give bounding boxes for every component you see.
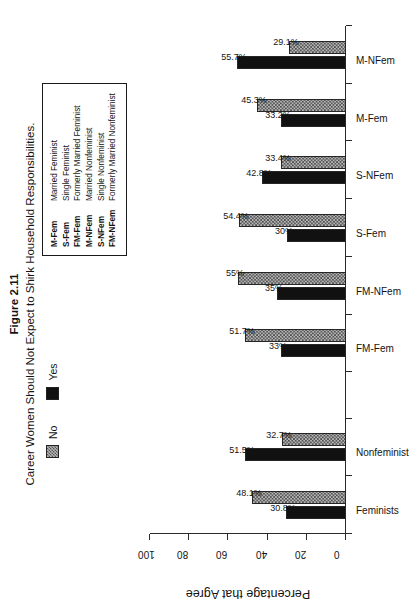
bar-value-label: 30.8% bbox=[270, 503, 296, 513]
bar-no-fm-nfem: 55% bbox=[238, 272, 346, 285]
figure-title: Career Women Should Not Expect to Shirk … bbox=[24, 0, 36, 608]
bar-value-label: 55.7% bbox=[221, 52, 247, 62]
bar-yes-nonfeminist: 51.5% bbox=[245, 448, 346, 461]
abbreviation-row: FM-FemFormerly Married Feminist bbox=[72, 93, 84, 247]
bar-no-m-fem: 45.3% bbox=[257, 99, 346, 112]
y-axis-tick bbox=[149, 534, 150, 540]
bar-group-m-fem: 33.2%45.3%M-Fem bbox=[150, 84, 346, 142]
bar-value-label: 51.5% bbox=[229, 445, 255, 455]
y-axis-tick-label: 60 bbox=[216, 549, 240, 560]
abbreviation-row: M-NFemMarried Nonfeminist bbox=[84, 93, 96, 247]
abbreviation-value: Single Feminist bbox=[61, 145, 73, 201]
bar-value-label: 55% bbox=[226, 268, 244, 278]
bar-yes-fm-nfem: 35% bbox=[277, 287, 346, 300]
abbreviation-key: FM-Fem bbox=[72, 201, 84, 247]
abbreviation-value: Formerly Married Feminist bbox=[72, 105, 84, 201]
bar-value-label: 42.8% bbox=[246, 168, 272, 178]
x-axis-tick bbox=[346, 533, 352, 534]
bar-group-spacer bbox=[150, 372, 346, 418]
bar-no-nonfeminist: 32.7% bbox=[282, 433, 346, 446]
y-axis-tick-label: 100 bbox=[138, 549, 162, 560]
y-axis-tick bbox=[188, 534, 189, 540]
bar-value-label: 35% bbox=[265, 283, 283, 293]
abbreviation-key: M-NFem bbox=[84, 201, 96, 247]
bar-group-m-nfem: 55.7%29.1%M-NFem bbox=[150, 26, 346, 84]
bar-yes-feminists: 30.8% bbox=[286, 506, 346, 519]
bar-value-label: 32.7% bbox=[266, 430, 292, 440]
x-axis-tick bbox=[346, 371, 352, 372]
abbreviation-legend-box: M-FemMarried FeministS-FemSingle Feminis… bbox=[42, 83, 127, 256]
abbreviation-key: S-NFem bbox=[96, 201, 108, 247]
abbreviation-value: Married Feminist bbox=[49, 140, 61, 201]
bar-group-s-nfem: 42.8%33.4%S-NFem bbox=[150, 141, 346, 199]
plot-area: 020406080100 Percentage that Agree 30.8%… bbox=[150, 26, 346, 534]
bar-value-label: 33.2% bbox=[265, 110, 291, 120]
x-axis-tick bbox=[346, 140, 352, 141]
y-axis-tick bbox=[306, 534, 307, 540]
bar-value-label: 33.4% bbox=[265, 153, 291, 163]
bar-value-label: 33% bbox=[269, 341, 287, 351]
chart-legend: NoYes bbox=[46, 363, 59, 458]
legend-entry-no: No bbox=[46, 426, 59, 458]
x-axis-category-label: S-Fem bbox=[356, 228, 386, 239]
y-axis-tick-label: 80 bbox=[177, 549, 201, 560]
y-axis-tick bbox=[345, 534, 346, 540]
abbreviation-row: M-FemMarried Feminist bbox=[49, 93, 61, 247]
x-axis-tick bbox=[346, 314, 352, 315]
legend-swatch-icon bbox=[46, 445, 59, 458]
abbreviation-value: Single Nonfeminist bbox=[96, 133, 108, 201]
legend-entry-yes: Yes bbox=[46, 363, 59, 399]
x-axis-tick bbox=[346, 418, 352, 419]
legend-label: Yes bbox=[47, 363, 59, 380]
bar-value-label: 29.1% bbox=[273, 37, 299, 47]
abbreviation-value: Married Nonfeminist bbox=[84, 128, 96, 201]
y-axis-tick bbox=[267, 534, 268, 540]
bar-group-feminists: 30.8%48.1%Feminists bbox=[150, 476, 346, 534]
legend-label: No bbox=[47, 426, 59, 439]
abbreviation-value: Formerly Married Nonfeminist bbox=[107, 93, 119, 201]
x-axis-tick bbox=[346, 83, 352, 84]
x-axis-category-label: S-NFem bbox=[356, 170, 393, 181]
bar-group-nonfeminist: 51.5%32.7%Nonfeminist bbox=[150, 419, 346, 477]
bar-group-fm-fem: 33%51.7%FM-Fem bbox=[150, 315, 346, 373]
x-axis-category-label: Nonfeminist bbox=[356, 447, 409, 458]
x-axis-category-label: M-Fem bbox=[356, 113, 388, 124]
figure-number: Figure 2.11 bbox=[8, 0, 20, 608]
y-axis-tick bbox=[227, 534, 228, 540]
legend-swatch-icon bbox=[46, 387, 59, 400]
abbreviation-key: M-Fem bbox=[49, 201, 61, 247]
bar-value-label: 45.3% bbox=[241, 95, 267, 105]
bar-value-label: 30% bbox=[275, 226, 293, 236]
bar-yes-s-fem: 30% bbox=[287, 229, 346, 242]
x-axis-tick bbox=[346, 256, 352, 257]
abbreviation-key: S-Fem bbox=[61, 201, 73, 247]
x-axis-tick bbox=[346, 475, 352, 476]
bar-value-label: 48.1% bbox=[236, 488, 262, 498]
bar-group-s-fem: 30%54.4%S-Fem bbox=[150, 199, 346, 257]
bar-yes-m-nfem: 55.7% bbox=[237, 56, 346, 69]
bar-group-fm-nfem: 35%55%FM-NFem bbox=[150, 257, 346, 315]
bar-groups: 30.8%48.1%Feminists51.5%32.7%Nonfeminist… bbox=[150, 26, 346, 534]
x-axis-category-label: Feminists bbox=[356, 505, 399, 516]
bar-no-feminists: 48.1% bbox=[252, 491, 346, 504]
x-axis-category-label: FM-Fem bbox=[356, 343, 394, 354]
bar-value-label: 54.4% bbox=[224, 211, 250, 221]
y-axis-tick-label: 0 bbox=[334, 549, 358, 560]
y-axis-tick-label: 40 bbox=[256, 549, 280, 560]
abbreviation-key: FM-NFem bbox=[107, 201, 119, 247]
x-axis-category-label: M-NFem bbox=[356, 55, 395, 66]
x-axis-tick bbox=[346, 25, 352, 26]
bar-no-m-nfem: 29.1% bbox=[289, 41, 346, 54]
abbreviation-row: S-NFemSingle Nonfeminist bbox=[96, 93, 108, 247]
x-axis-category-label: FM-NFem bbox=[356, 286, 401, 297]
bar-value-label: 51.7% bbox=[229, 326, 255, 336]
bar-yes-fm-fem: 33% bbox=[281, 344, 346, 357]
bar-yes-m-fem: 33.2% bbox=[281, 114, 346, 127]
bar-no-s-nfem: 33.4% bbox=[281, 156, 346, 169]
bar-yes-s-nfem: 42.8% bbox=[262, 171, 346, 184]
bar-no-s-fem: 54.4% bbox=[239, 214, 346, 227]
abbreviation-row: FM-NFemFormerly Married Nonfeminist bbox=[107, 93, 119, 247]
bar-no-fm-fem: 51.7% bbox=[245, 329, 346, 342]
